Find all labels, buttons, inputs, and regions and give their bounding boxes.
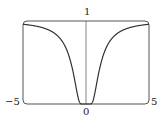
x-tick-label-zero: 0 [83,107,89,117]
y-tick-label-1: 1 [84,7,90,17]
plot-area [0,0,158,123]
x-tick-label-max: 5 [151,97,157,107]
x-tick-label-min: −5 [5,97,20,107]
